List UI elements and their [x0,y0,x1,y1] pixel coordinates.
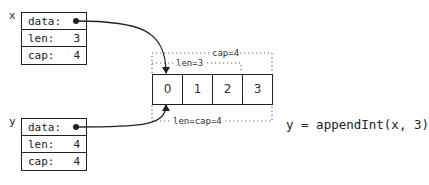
arrow-icon [76,105,166,127]
len-cap-label: len=cap=4 [173,116,222,126]
cap-label: cap=4 [212,48,239,58]
code-statement: y = appendInt(x, 3) [286,117,429,132]
len-label: len=3 [176,58,203,68]
arrow-icon [76,21,166,73]
